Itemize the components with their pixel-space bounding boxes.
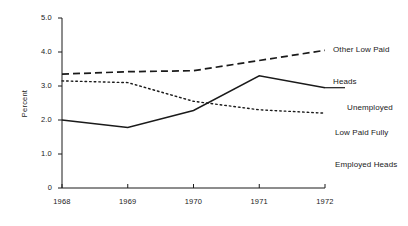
y-axis-tick-label: 1.0 xyxy=(26,149,52,158)
series-line-low-paid-fully-employed-heads xyxy=(62,81,325,113)
x-axis-tick-label: 1971 xyxy=(239,197,279,206)
y-axis-tick-label: 4.0 xyxy=(26,47,52,56)
series-label-line-2: Employed Heads xyxy=(335,160,397,171)
y-axis-ticks xyxy=(58,18,62,188)
line-chart: Percent 5.04.03.02.01.00 196819691970197… xyxy=(0,0,408,226)
series-line-other-low-paid-heads xyxy=(62,50,325,74)
series-label-line-1: Other Low Paid xyxy=(333,45,390,56)
y-axis-title: Percent xyxy=(20,89,29,116)
y-axis-tick-label: 2.0 xyxy=(26,115,52,124)
series-label-line-1: Low Paid Fully xyxy=(335,128,397,139)
x-axis-tick-label: 1968 xyxy=(42,197,82,206)
y-axis-tick-label: 5.0 xyxy=(26,13,52,22)
y-axis-tick-label: 3.0 xyxy=(26,81,52,90)
data-series-group xyxy=(62,50,325,127)
y-axis-tick-label: 0 xyxy=(26,183,52,192)
axes-group xyxy=(62,18,325,188)
x-axis-tick-label: 1969 xyxy=(108,197,148,206)
x-axis-tick-label: 1972 xyxy=(305,197,345,206)
x-axis-ticks xyxy=(62,184,325,188)
series-label-low-paid-fully-employed-heads: Low Paid Fully Employed Heads xyxy=(335,107,397,191)
x-axis-tick-label: 1970 xyxy=(174,197,214,206)
